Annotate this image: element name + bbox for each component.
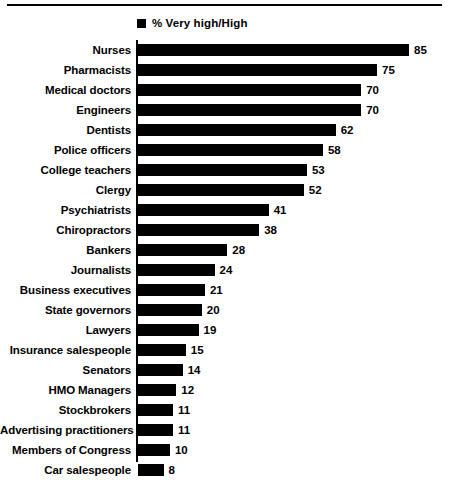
bar-with-value: 28 xyxy=(138,244,245,256)
category-label: Senators xyxy=(0,364,131,377)
bar xyxy=(138,204,269,216)
bar-value-label: 70 xyxy=(366,84,379,96)
bar-value-label: 85 xyxy=(414,44,427,56)
bar-with-value: 14 xyxy=(138,364,200,376)
bar-row: Bankers28 xyxy=(0,240,449,260)
category-label: Engineers xyxy=(0,104,131,117)
bar-value-label: 53 xyxy=(312,164,325,176)
bar-value-label: 20 xyxy=(207,304,220,316)
category-label: Clergy xyxy=(0,184,131,197)
category-label: Nurses xyxy=(0,44,131,57)
black-square-icon xyxy=(137,19,146,28)
bar xyxy=(138,84,361,96)
bar-row: Stockbrokers11 xyxy=(0,400,449,420)
bar-value-label: 28 xyxy=(232,244,245,256)
bar-with-value: 20 xyxy=(138,304,220,316)
bar xyxy=(138,424,173,436)
bar xyxy=(138,184,304,196)
bar-value-label: 24 xyxy=(220,264,233,276)
category-label: Police officers xyxy=(0,144,131,157)
category-label: Medical doctors xyxy=(0,84,131,97)
bar-with-value: 12 xyxy=(138,384,194,396)
bar-with-value: 62 xyxy=(138,124,353,136)
category-label: Chiropractors xyxy=(0,224,131,237)
bar-row: Engineers70 xyxy=(0,100,449,120)
bar-value-label: 52 xyxy=(309,184,322,196)
bar xyxy=(138,244,227,256)
bar-value-label: 8 xyxy=(169,464,175,476)
bar-value-label: 75 xyxy=(382,64,395,76)
bar-with-value: 38 xyxy=(138,224,277,236)
bar-value-label: 70 xyxy=(366,104,379,116)
bar xyxy=(138,444,170,456)
chart-legend: % Very high/High xyxy=(137,16,248,30)
bar xyxy=(138,124,336,136)
bar xyxy=(138,324,199,336)
bar xyxy=(138,44,409,56)
legend-label: % Very high/High xyxy=(152,17,248,29)
category-label: Pharmacists xyxy=(0,64,131,77)
bar-row: Insurance salespeople15 xyxy=(0,340,449,360)
bar-value-label: 11 xyxy=(178,424,190,436)
category-label: Lawyers xyxy=(0,324,131,337)
bar-row: Psychiatrists41 xyxy=(0,200,449,220)
category-label: Stockbrokers xyxy=(0,404,131,417)
bar-with-value: 52 xyxy=(138,184,322,196)
bar-with-value: 21 xyxy=(138,284,223,296)
bar xyxy=(138,304,202,316)
category-label: State governors xyxy=(0,304,131,317)
bar-row: Advertising practitioners11 xyxy=(0,420,449,440)
category-label: College teachers xyxy=(0,164,131,177)
bar-row: Business executives21 xyxy=(0,280,449,300)
bar-with-value: 8 xyxy=(138,464,175,476)
category-label: Journalists xyxy=(0,264,131,277)
category-label: Bankers xyxy=(0,244,131,257)
bar-value-label: 14 xyxy=(188,364,201,376)
bar-row: State governors20 xyxy=(0,300,449,320)
bar-with-value: 70 xyxy=(138,104,379,116)
bar-value-label: 19 xyxy=(204,324,217,336)
bar-value-label: 11 xyxy=(178,404,190,416)
bar-row: Dentists62 xyxy=(0,120,449,140)
bar xyxy=(138,364,183,376)
bar-with-value: 58 xyxy=(138,144,341,156)
bar xyxy=(138,144,323,156)
bar-row: Chiropractors38 xyxy=(0,220,449,240)
category-label: HMO Managers xyxy=(0,384,131,397)
bar xyxy=(138,384,176,396)
plot-area: Nurses85Pharmacists75Medical doctors70En… xyxy=(0,40,449,464)
bar-with-value: 75 xyxy=(138,64,395,76)
bar-row: Nurses85 xyxy=(0,40,449,60)
bar-value-label: 62 xyxy=(341,124,354,136)
bar-with-value: 19 xyxy=(138,324,216,336)
bar-with-value: 11 xyxy=(138,404,190,416)
bar-row: Medical doctors70 xyxy=(0,80,449,100)
bar-row: Journalists24 xyxy=(0,260,449,280)
bar xyxy=(138,464,164,476)
bar-value-label: 58 xyxy=(328,144,341,156)
bar xyxy=(138,224,259,236)
bar-value-label: 10 xyxy=(175,444,188,456)
bar-with-value: 70 xyxy=(138,84,379,96)
bar-row: Car salespeople8 xyxy=(0,460,449,480)
bar xyxy=(138,264,215,276)
bar-with-value: 53 xyxy=(138,164,325,176)
bar-row: HMO Managers12 xyxy=(0,380,449,400)
bar-with-value: 15 xyxy=(138,344,204,356)
bar xyxy=(138,284,205,296)
category-label: Car salespeople xyxy=(0,464,131,477)
bar-value-label: 41 xyxy=(274,204,287,216)
bar-value-label: 12 xyxy=(181,384,194,396)
bar xyxy=(138,164,307,176)
bar-value-label: 21 xyxy=(210,284,223,296)
bar-with-value: 41 xyxy=(138,204,287,216)
bar-row: College teachers53 xyxy=(0,160,449,180)
category-label: Advertising practitioners xyxy=(0,424,131,437)
category-label: Insurance salespeople xyxy=(0,344,131,357)
category-label: Dentists xyxy=(0,124,131,137)
bar xyxy=(138,64,377,76)
bar xyxy=(138,104,361,116)
bar-row: Clergy52 xyxy=(0,180,449,200)
bar-with-value: 85 xyxy=(138,44,427,56)
